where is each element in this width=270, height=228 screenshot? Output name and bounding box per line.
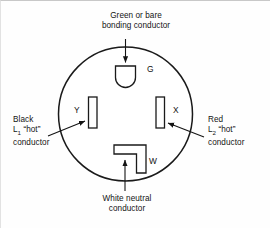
right-hot-conductor-label-line1: Red <box>208 115 264 125</box>
diagram-page: Green or bare bonding conductor Black L1… <box>0 0 270 228</box>
left-hot-conductor-label: Black L1 “hot” conductor <box>13 115 59 148</box>
slot-letter-y: Y <box>74 105 80 115</box>
ground-conductor-label: Green or bare bonding conductor <box>86 11 186 31</box>
right-hot-hot-text: “hot” <box>216 125 235 134</box>
left-hot-conductor-label-line3: conductor <box>13 138 59 148</box>
slot-letter-g: G <box>147 64 154 74</box>
slot-letter-w: W <box>149 156 157 166</box>
ground-slot <box>116 66 136 88</box>
ground-conductor-label-line1: Green or bare <box>86 11 186 21</box>
ground-conductor-label-line2: bonding conductor <box>86 21 186 31</box>
right-hot-conductor-label: Red L2 “hot” conductor <box>208 115 264 148</box>
neutral-conductor-label: White neutral conductor <box>79 194 175 214</box>
right-hot-conductor-label-line2: L2 “hot” <box>208 125 264 138</box>
neutral-conductor-label-line2: conductor <box>79 204 175 214</box>
neutral-conductor-label-line1: White neutral <box>79 194 175 204</box>
left-hot-conductor-label-line1: Black <box>13 115 59 125</box>
left-hot-slot <box>89 97 98 128</box>
left-hot-conductor-label-line2: L1 “hot” <box>13 125 59 138</box>
slot-letter-x: X <box>173 105 179 115</box>
right-hot-slot <box>156 97 165 128</box>
left-hot-hot-text: “hot” <box>21 125 40 134</box>
right-hot-conductor-label-line3: conductor <box>208 138 264 148</box>
